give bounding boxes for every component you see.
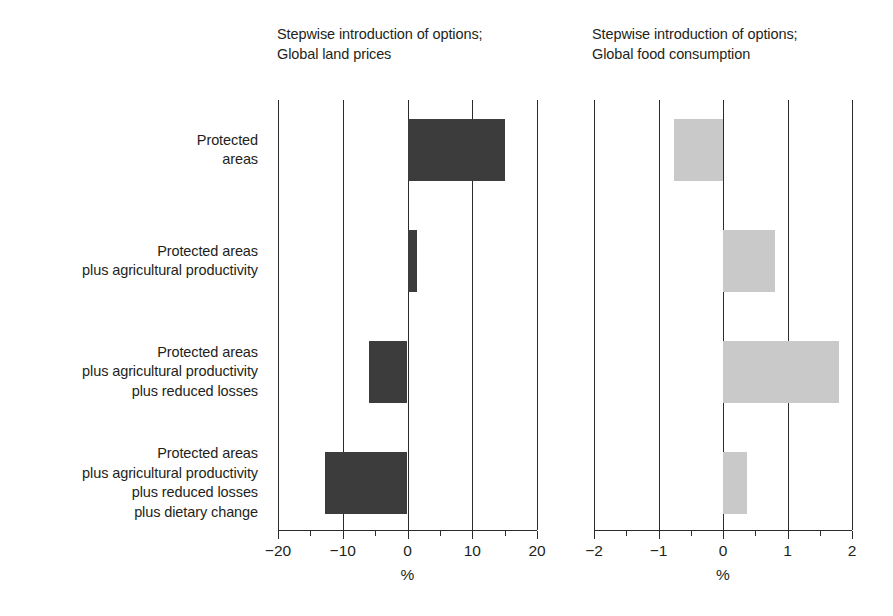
x-tick-left-major	[472, 531, 473, 539]
bar-right-2	[723, 230, 775, 292]
figure-two-panel-bar-chart: Stepwise introduction of options; Global…	[0, 0, 893, 616]
category-label-3: Protected areas plus agricultural produc…	[0, 343, 268, 402]
x-tick-left-major	[343, 531, 344, 539]
x-tick-left-major	[537, 531, 538, 539]
category-label-column: Protected areasProtected areas plus agri…	[0, 100, 268, 530]
panel-title-land-prices: Stepwise introduction of options; Global…	[277, 24, 482, 64]
bar-left-1	[408, 119, 505, 181]
x-tick-right-minor	[691, 531, 692, 536]
x-tick-label-right-0: −2	[585, 542, 603, 560]
category-label-1: Protected areas	[0, 131, 268, 170]
plot-area-food-consumption	[594, 100, 852, 530]
x-tick-right-major	[659, 531, 660, 539]
x-tick-right-major	[788, 531, 789, 539]
category-label-4: Protected areas plus agricultural produc…	[0, 444, 268, 522]
x-tick-right-minor	[626, 531, 627, 536]
panel-title-food-consumption: Stepwise introduction of options; Global…	[592, 24, 797, 64]
x-axis-title-right: %	[716, 566, 730, 584]
panel-land-prices: −20−1001020%	[278, 100, 537, 530]
x-tick-right-major	[852, 531, 853, 539]
bar-left-4	[325, 452, 408, 514]
gridline-left-0	[278, 100, 279, 530]
x-axis-title-left: %	[401, 566, 415, 584]
x-tick-left-major	[278, 531, 279, 539]
x-tick-right-minor	[755, 531, 756, 536]
x-tick-left-minor	[505, 531, 506, 536]
x-tick-right-major	[594, 531, 595, 539]
x-tick-label-right-4: 2	[848, 542, 857, 560]
x-tick-label-right-1: −1	[650, 542, 668, 560]
bar-right-3	[723, 341, 839, 403]
gridline-left-4	[537, 100, 538, 530]
x-tick-right-minor	[820, 531, 821, 536]
x-tick-left-minor	[440, 531, 441, 536]
plot-area-land-prices	[278, 100, 537, 530]
x-tick-label-left-2: 0	[403, 542, 412, 560]
gridline-right-4	[852, 100, 853, 530]
category-label-2: Protected areas plus agricultural produc…	[0, 242, 268, 281]
bar-left-2	[408, 230, 418, 292]
bar-left-3	[369, 341, 408, 403]
x-tick-right-major	[723, 531, 724, 539]
x-tick-label-right-2: 0	[719, 542, 728, 560]
bar-right-1	[674, 119, 723, 181]
x-tick-left-minor	[310, 531, 311, 536]
x-tick-left-minor	[375, 531, 376, 536]
x-tick-label-right-3: 1	[783, 542, 792, 560]
gridline-right-3	[788, 100, 789, 530]
x-tick-left-major	[408, 531, 409, 539]
x-tick-label-left-3: 10	[464, 542, 481, 560]
x-tick-label-left-4: 20	[528, 542, 545, 560]
x-tick-label-left-0: −20	[265, 542, 291, 560]
bar-right-4	[723, 452, 747, 514]
gridline-right-0	[594, 100, 595, 530]
panel-food-consumption: −2−1012%	[594, 100, 852, 530]
x-tick-label-left-1: −10	[330, 542, 356, 560]
gridline-right-1	[659, 100, 660, 530]
